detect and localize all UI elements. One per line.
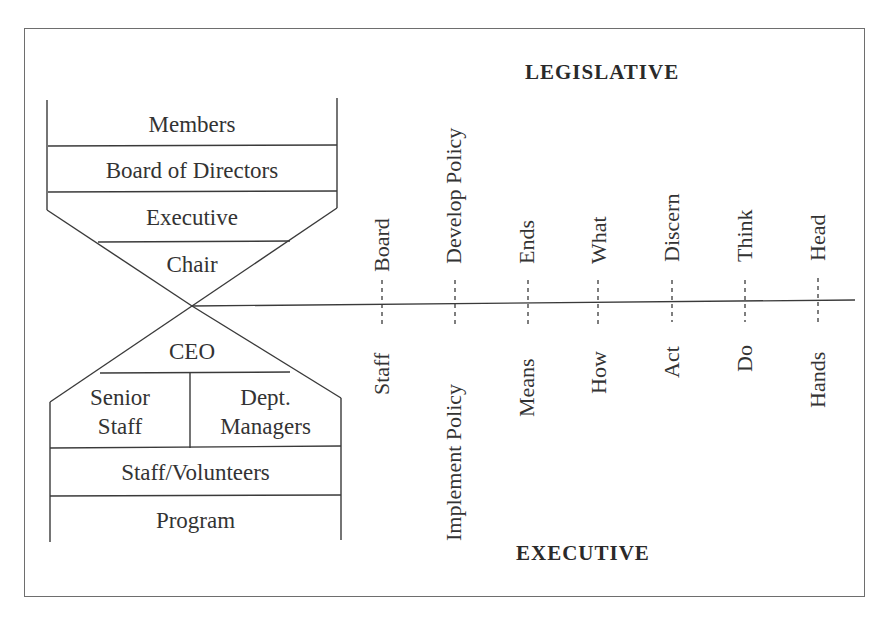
ceo-label: CEO — [47, 340, 337, 363]
governance-diagram: LEGISLATIVE EXECUTIVE Members Board of D… — [0, 0, 891, 620]
pair-legislative-board: Board — [371, 218, 393, 272]
legislative-title: LEGISLATIVE — [525, 60, 679, 85]
dept-managers-label-line2: Managers — [190, 415, 341, 438]
pair-executive-how: How — [588, 351, 610, 394]
executive-title: EXECUTIVE — [516, 541, 650, 566]
pair-legislative-ends: Ends — [516, 220, 538, 264]
dept-managers-label-line1: Dept. — [190, 386, 341, 409]
senior-staff-label-line2: Staff — [50, 415, 190, 438]
pair-legislative-what: What — [588, 216, 610, 264]
pair-executive-implement-policy: Implement Policy — [443, 384, 465, 541]
program-label: Program — [50, 509, 341, 532]
pair-executive-hands: Hands — [807, 352, 829, 408]
board-of-directors-label: Board of Directors — [47, 159, 337, 182]
staff-volunteers-label: Staff/Volunteers — [50, 461, 341, 484]
pair-legislative-think: Think — [734, 209, 756, 262]
pair-legislative-discern: Discern — [661, 194, 683, 262]
pair-legislative-head: Head — [807, 215, 829, 261]
pair-executive-means: Means — [516, 358, 538, 417]
chair-label: Chair — [47, 253, 337, 276]
pair-executive-do: Do — [734, 345, 756, 372]
executive-label: Executive — [47, 206, 337, 229]
pair-executive-staff: Staff — [371, 353, 393, 395]
members-label: Members — [47, 113, 337, 136]
pair-executive-act: Act — [661, 346, 683, 378]
senior-staff-label-line1: Senior — [50, 386, 190, 409]
pair-legislative-develop-policy: Develop Policy — [443, 128, 465, 264]
